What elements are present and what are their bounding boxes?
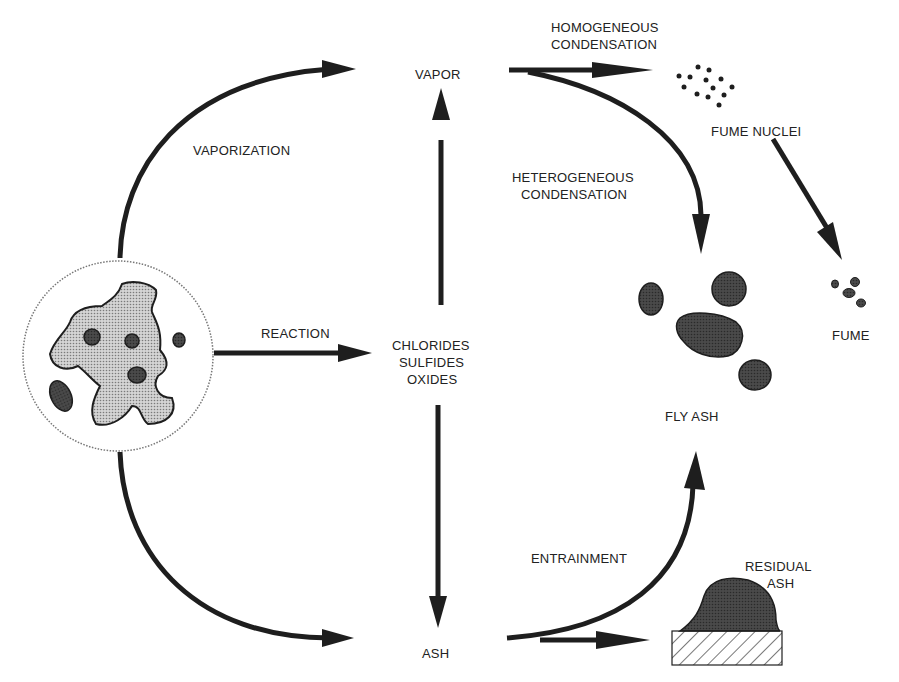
fume-nuclei-label: FUME NUCLEI	[711, 124, 801, 139]
compound-sulfides: SULFIDES	[399, 355, 464, 370]
arrowhead-icon	[596, 631, 650, 649]
fume-particles	[832, 278, 866, 308]
fly-ash-particles	[639, 272, 771, 390]
excluded-mineral	[173, 333, 185, 347]
residual-ash-label-line1: RESIDUAL	[745, 559, 812, 574]
arrowhead-icon	[338, 344, 372, 362]
ash-formation-diagram: VAPORIZATION VAPOR REACTION CHLORIDES SU…	[0, 0, 899, 682]
fly-ash-label: FLY ASH	[665, 409, 719, 424]
arrowhead-icon	[429, 596, 447, 628]
residual-ash-label-line2: ASH	[767, 576, 794, 591]
compound-oxides: OXIDES	[407, 372, 457, 387]
vaporization-label: VAPORIZATION	[193, 143, 290, 158]
arrowhead-icon	[322, 629, 354, 647]
arrowhead-icon	[432, 88, 450, 120]
ash-label: ASH	[422, 646, 449, 661]
inclusion	[84, 329, 100, 345]
reaction-label: REACTION	[261, 326, 330, 341]
substrate-hatch	[672, 631, 782, 665]
residual-ash-deposit	[672, 578, 782, 665]
nuclei-to-fume-arrow	[773, 139, 827, 228]
inclusion	[128, 367, 146, 383]
heterogeneous-label-line1: HETEROGENEOUS	[512, 170, 634, 185]
heterogeneous-label-line2: CONDENSATION	[521, 187, 627, 202]
compound-chlorides: CHLORIDES	[392, 338, 470, 353]
ash-formation-arrow	[120, 452, 330, 638]
entrainment-label: ENTRAINMENT	[531, 551, 627, 566]
inclusion	[125, 334, 139, 348]
ash-mound	[680, 578, 780, 631]
coal-particle	[23, 261, 213, 451]
arrowhead-icon	[692, 214, 710, 254]
homogeneous-label-line1: HOMOGENEOUS	[551, 20, 659, 35]
arrowhead-icon	[322, 60, 356, 78]
fume-nuclei-particles	[677, 65, 735, 108]
homogeneous-label-line2: CONDENSATION	[551, 37, 657, 52]
vaporization-arrow	[120, 69, 330, 258]
vapor-label: VAPOR	[415, 67, 461, 82]
fume-label: FUME	[832, 328, 870, 343]
arrowhead-icon	[817, 222, 842, 260]
arrowhead-icon	[684, 451, 705, 490]
arrowhead-icon	[592, 62, 653, 78]
